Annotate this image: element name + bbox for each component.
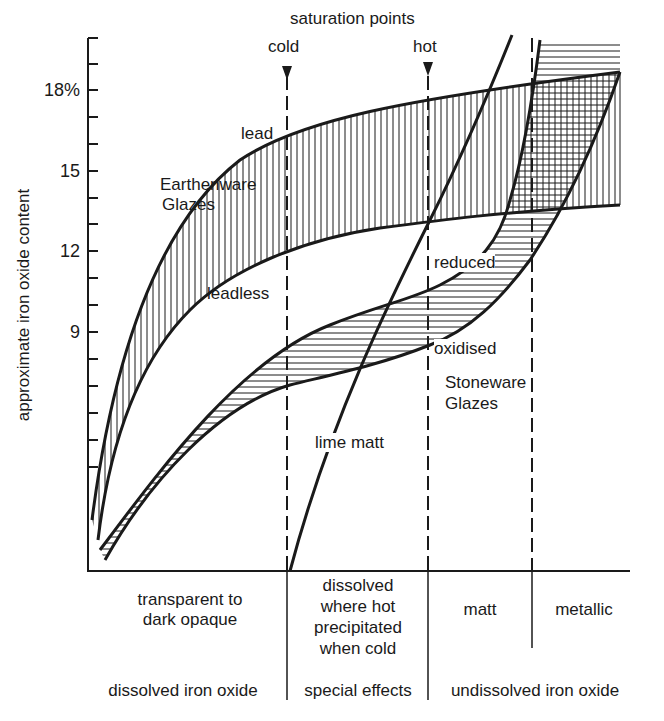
- lead-label: lead: [241, 124, 273, 143]
- group-special-effects: special effects: [288, 681, 428, 700]
- y-tick-12: 12: [30, 242, 80, 260]
- y-axis-title: approximate iron oxide content: [14, 189, 34, 421]
- saturation-points-title: saturation points: [290, 9, 415, 28]
- iron-oxide-diagram: approximate iron oxide content 18% 15 12…: [0, 0, 664, 721]
- oxidised-label: oxidised: [434, 339, 496, 358]
- group-undissolved-iron-oxide: undissolved iron oxide: [430, 681, 640, 700]
- zone-2-line-3: precipitated: [290, 618, 426, 637]
- lime-matt-label: lime matt: [315, 433, 384, 452]
- earthenware-label-1: Earthenware: [160, 175, 280, 194]
- y-tick-9: 9: [30, 323, 80, 341]
- y-tick-18: 18%: [30, 81, 80, 99]
- zone-2-line-2: where hot: [290, 597, 426, 616]
- leadless-label: leadless: [207, 284, 269, 303]
- earthenware-label-2: Glazes: [162, 195, 215, 214]
- zone-2-line-1: dissolved: [290, 576, 426, 595]
- y-tick-15: 15: [30, 162, 80, 180]
- zone-1-line-1: transparent to: [100, 590, 280, 609]
- zone-3-label: matt: [430, 600, 530, 619]
- zone-4-label: metallic: [534, 600, 634, 619]
- zone-2-line-4: when cold: [290, 639, 426, 658]
- reduced-label: reduced: [434, 253, 495, 272]
- hot-marker-icon: [423, 62, 433, 76]
- zone-1-line-2: dark opaque: [100, 610, 280, 629]
- group-dissolved-iron-oxide: dissolved iron oxide: [82, 681, 284, 700]
- hot-label: hot: [413, 37, 437, 56]
- stoneware-label-2: Glazes: [445, 394, 498, 413]
- stoneware-label-1: Stoneware: [445, 373, 526, 392]
- cold-label: cold: [268, 37, 299, 56]
- cold-marker-icon: [282, 66, 292, 80]
